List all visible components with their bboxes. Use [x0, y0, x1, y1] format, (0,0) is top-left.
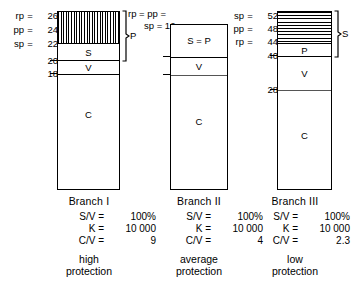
branch-3-stat-2: C/V = 2.3	[240, 236, 350, 248]
scale-label-b1-0: rp=26	[8, 11, 58, 21]
stat-value: 10 000	[319, 224, 350, 234]
scale-value: 24	[36, 25, 58, 35]
stat-key: C/V =	[79, 236, 104, 246]
scale-label-b1-1: pp=24	[8, 25, 58, 35]
branch-3-segment-v-label: V	[278, 69, 331, 79]
stat-key: K =	[196, 224, 211, 234]
scale-name: pp	[8, 25, 24, 35]
stat-key: C/V =	[273, 236, 298, 246]
scale-eq: =	[24, 39, 36, 49]
scale-eq: =	[244, 11, 256, 21]
scale-value: 48	[256, 24, 278, 34]
branch-1-segment-hatch	[58, 12, 119, 43]
branch-3-segment-p: P	[278, 44, 331, 56]
scale-name: rp	[8, 11, 24, 21]
branch-3-title: Branch III	[240, 196, 350, 207]
branch-1-brace-label: P	[130, 31, 136, 41]
scale-name: pp	[228, 24, 244, 34]
branch-3-protection-word2: protection	[240, 265, 350, 278]
branch-2-column: S = P V C	[170, 24, 228, 190]
branch-1-column: S V C	[57, 11, 120, 190]
stat-key: S/V =	[79, 212, 104, 222]
stat-key: K =	[283, 224, 298, 234]
branch-1-segment-v: V	[58, 61, 119, 74]
branch-3-segment-p-label: P	[278, 46, 331, 56]
branch-2-segment-v-label: V	[171, 62, 227, 72]
branch-2-top-note-line1: rp = pp =	[128, 8, 166, 19]
scale-value: 26	[36, 11, 58, 21]
branch-2-segment-s-eq-p: S = P	[171, 25, 227, 57]
branch-3-segment-hatch	[278, 12, 331, 43]
stat-key: S/V =	[273, 212, 298, 222]
branch-3-caption: Branch III S/V = 100% K = 10 000 C/V = 2…	[240, 196, 350, 278]
stat-value: 2.3	[336, 236, 350, 246]
branch-2-segment-v: V	[171, 58, 227, 75]
scale-name: rp	[228, 37, 244, 47]
scale-label-b3-1: pp=48	[228, 24, 278, 34]
branch-3-stat-1: K = 10 000	[240, 224, 350, 236]
stat-key: C/V =	[186, 236, 211, 246]
branch-2-segment-c-label: C	[171, 117, 227, 127]
branch-3-column: P V C	[277, 11, 332, 190]
figure-canvas: rp=26 pp=24 sp=22 20 18 S V C P	[0, 0, 353, 283]
branch-3-protection-word: low	[240, 253, 350, 266]
branch-3-stat-0: S/V = 100%	[240, 212, 350, 224]
branch-1-segment-s: S	[58, 44, 119, 60]
scale-value: 22	[36, 39, 58, 49]
branch-1-segment-c: C	[58, 75, 119, 189]
scale-eq: =	[244, 37, 256, 47]
scale-eq: =	[244, 24, 256, 34]
scale-label-b1-2: sp=22	[8, 39, 58, 49]
branch-2-segment-c: C	[171, 76, 227, 189]
branch-3-brace-label: S	[342, 29, 348, 39]
stat-key: S/V =	[186, 212, 211, 222]
stat-key: K =	[89, 224, 104, 234]
branch-1-segment-c-label: C	[58, 110, 119, 120]
branch-3-segment-v: V	[278, 57, 331, 90]
branch-3-brace	[333, 10, 342, 58]
scale-name: sp	[228, 11, 244, 21]
scale-name: sp	[8, 39, 24, 49]
stat-value: 100%	[324, 212, 350, 222]
branch-3-segment-c-label: C	[278, 131, 331, 141]
branch-1-segment-s-label: S	[58, 48, 119, 58]
branch-2-segment-s-eq-p-label: S = P	[171, 36, 227, 46]
branch-1-segment-v-label: V	[58, 63, 119, 73]
scale-value: 44	[256, 37, 278, 47]
scale-eq: =	[24, 11, 36, 21]
branch-3-segment-c: C	[278, 91, 331, 189]
scale-label-b3-0: sp=52	[228, 11, 278, 21]
scale-eq: =	[24, 25, 36, 35]
scale-label-b3-2: rp=44	[228, 37, 278, 47]
scale-value: 52	[256, 11, 278, 21]
